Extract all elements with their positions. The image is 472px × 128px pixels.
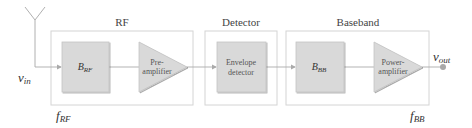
b-rf-sub: RF — [83, 66, 93, 74]
section-label-baseband: Baseband — [337, 16, 380, 28]
vin-label: vin — [18, 70, 31, 86]
poweramp-label-line1: Power- — [382, 58, 405, 67]
section-label-rf: RF — [115, 16, 128, 28]
vout-label: vout — [433, 49, 451, 65]
f-bb-label: fBB — [410, 108, 425, 124]
envelope-detector-block: Envelope detector — [217, 42, 266, 92]
envelope-label-line2: detector — [228, 68, 254, 77]
envelope-label-line1: Envelope — [226, 58, 257, 67]
b-bb-sub: BB — [318, 66, 327, 74]
f-rf-label: fRF — [56, 108, 71, 124]
b-bb-block: BBB — [296, 42, 344, 92]
poweramp-label-line2: amplifier — [378, 67, 408, 76]
receiver-diagram: RF Detector Baseband BRF Pre- amplifier … — [0, 0, 472, 128]
b-rf-block: BRF — [62, 42, 109, 92]
power-amplifier-block: Power- amplifier — [374, 42, 422, 92]
preamplifier-block: Pre- amplifier — [139, 42, 187, 92]
antenna-icon — [25, 7, 45, 67]
section-label-detector: Detector — [222, 16, 260, 28]
preamp-label-line2: amplifier — [142, 67, 172, 76]
preamp-label-line1: Pre- — [150, 58, 164, 67]
